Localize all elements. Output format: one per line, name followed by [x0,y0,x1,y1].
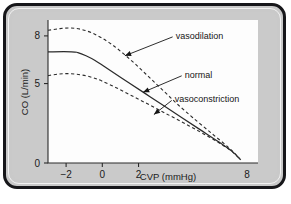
x-axis-title: CVP (mmHg) [140,171,196,182]
y-axis-tick-label: 8 [34,30,40,41]
y-axis-tick-label: 5 [34,78,40,89]
annotation-label-vasoconstriction: vasoconstriction [175,94,240,104]
annotation-label-vasodilation: vasodilation [176,31,224,41]
x-axis-tick-label: −2 [60,169,72,180]
annotation-label-normal: normal [185,70,213,80]
x-axis-tick-label: 0 [100,169,106,180]
y-axis-title: CO (L/min) [19,69,30,115]
y-axis-tick-label: 0 [34,158,40,169]
figure-root: 058−2028 vasodilationnormalvasoconstrict… [0,0,291,204]
cardiac-function-curve-chart: 058−2028 vasodilationnormalvasoconstrict… [0,0,291,204]
x-axis-tick-label: 8 [244,169,250,180]
plot-area-background [48,20,258,163]
